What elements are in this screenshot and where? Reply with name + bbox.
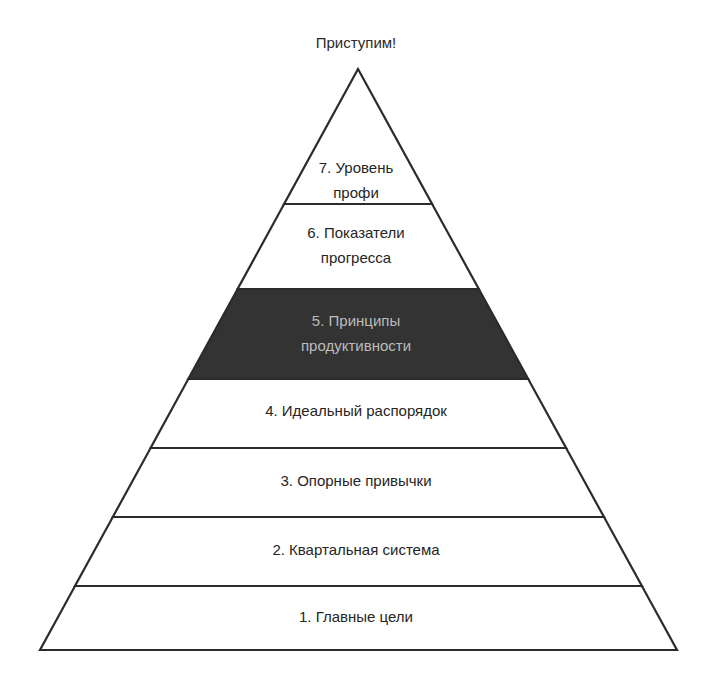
layer-1-line1: 1. Главные цели: [0, 604, 712, 629]
layer-3-label: 3. Опорные привычки: [0, 468, 712, 493]
layer-7-line1: 7. Уровень: [0, 155, 712, 180]
layer-2-line1: 2. Квартальная система: [0, 537, 712, 562]
layer-4-line1: 4. Идеальный распорядок: [0, 398, 712, 423]
diagram-title: Приступим!: [0, 33, 712, 53]
layer-5-line2: продуктивности: [0, 333, 712, 358]
layer-2-label: 2. Квартальная система: [0, 537, 712, 562]
layer-3-line1: 3. Опорные привычки: [0, 468, 712, 493]
layer-7-line2: профи: [0, 180, 712, 205]
layer-4-label: 4. Идеальный распорядок: [0, 398, 712, 423]
layer-5-line1: 5. Принципы: [0, 308, 712, 333]
layer-6-label: 6. Показатели прогресса: [0, 220, 712, 270]
pyramid-diagram: Приступим! 7. Уровень профи 6. Показател…: [0, 0, 712, 692]
layer-6-line2: прогресса: [0, 245, 712, 270]
layer-1-label: 1. Главные цели: [0, 604, 712, 629]
layer-5-label: 5. Принципы продуктивности: [0, 308, 712, 358]
layer-7-label: 7. Уровень профи: [0, 155, 712, 205]
layer-6-line1: 6. Показатели: [0, 220, 712, 245]
